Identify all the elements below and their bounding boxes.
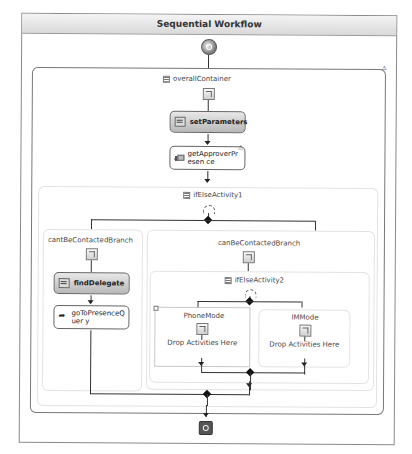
branch-label: PhoneMode	[183, 312, 224, 320]
connector	[91, 219, 92, 229]
sequential-workflow: Sequential Workflow ⚠ overallContainer s…	[19, 13, 398, 445]
drop-activities-placeholder[interactable]: Drop Activities Here	[167, 339, 237, 348]
drop-activities-placeholder[interactable]: Drop Activities Here	[269, 340, 339, 349]
arrow-down-icon	[198, 362, 204, 366]
branch-label: canBeContactedBranch	[218, 239, 300, 248]
invoke-activity-icon	[174, 154, 183, 162]
connector	[90, 330, 91, 394]
ifelse-icon	[245, 289, 257, 298]
ifelse2-label: ifElseActivity2	[225, 276, 284, 284]
activity-finddelegate[interactable]: findDelegate	[54, 272, 130, 294]
connector	[91, 260, 92, 272]
workflow-end-icon	[199, 421, 213, 435]
code-activity-icon	[59, 278, 70, 288]
ifelse-icon	[203, 205, 215, 214]
ifelse1-label: ifElseActivity1	[183, 191, 242, 199]
activity-label: setParameters	[190, 118, 248, 126]
activity-setparameters[interactable]: setParameters	[170, 111, 246, 133]
activity-gotopresencequery[interactable]: goToPresenceQuer y	[53, 305, 129, 329]
connector	[249, 381, 250, 395]
branch-label: cantBeContactedBranch	[48, 236, 133, 245]
connector	[302, 302, 303, 308]
activity-label: getApproverPresen ce	[187, 150, 239, 166]
sequence-icon	[196, 323, 208, 335]
workflow-start-icon	[201, 39, 217, 55]
activity-label: goToPresenceQuer y	[71, 309, 128, 325]
warning-icon[interactable]: ⚠	[238, 143, 243, 150]
ifelse-activity-2[interactable]: ifElseActivity2 PhoneMode Drop Activi	[149, 271, 370, 384]
selection-handle[interactable]	[154, 306, 159, 311]
ifelse2-title: ifElseActivity2	[235, 276, 284, 284]
arrow-down-icon	[205, 141, 211, 145]
branch-phonemode[interactable]: PhoneMode Drop Activities Here	[154, 307, 250, 368]
branch-label: IMMode	[291, 314, 318, 322]
connector	[208, 55, 209, 68]
arrow-down-icon	[204, 179, 210, 183]
connector	[207, 394, 208, 406]
merge-line	[90, 393, 250, 395]
code-activity-icon	[175, 117, 186, 127]
overall-container-title: overallContainer	[173, 75, 231, 83]
collapse-icon[interactable]	[163, 75, 170, 82]
arrow-down-icon	[88, 300, 94, 304]
ifelse-activity-1[interactable]: ifElseActivity1 cantBeContactedBranch fi…	[37, 186, 378, 408]
overall-container-label: overallContainer	[163, 75, 231, 83]
connector	[248, 263, 249, 271]
sequence-icon	[243, 251, 255, 263]
collapse-icon[interactable]	[225, 277, 232, 284]
branch-line	[91, 219, 315, 221]
workflow-title: Sequential Workflow	[22, 14, 396, 36]
ifelse1-title: ifElseActivity1	[193, 191, 242, 199]
activity-getapproverpresence[interactable]: getApproverPresen ce ⚠	[169, 146, 245, 170]
warning-icon[interactable]: ⚠	[382, 64, 387, 71]
goto-activity-icon	[58, 313, 67, 321]
activity-label: findDelegate	[74, 279, 125, 287]
sequence-icon	[86, 248, 98, 260]
collapse-icon[interactable]	[183, 191, 190, 198]
connector	[208, 100, 209, 111]
arrow-down-icon	[203, 413, 209, 417]
branch-canbecontacted[interactable]: canBeContactedBranch ifElseActivity2	[146, 230, 375, 391]
sequence-icon	[203, 88, 215, 100]
connector	[315, 221, 316, 231]
sequence-icon	[299, 325, 311, 337]
overall-container[interactable]: ⚠ overallContainer setParameters getAppr…	[30, 67, 386, 415]
branch-cantbecontacted[interactable]: cantBeContactedBranch findDelegate goToP…	[42, 229, 143, 392]
connector	[250, 372, 251, 390]
arrow-down-icon	[301, 363, 307, 367]
branch-immode[interactable]: IMMode Drop Activities Here	[258, 309, 350, 368]
